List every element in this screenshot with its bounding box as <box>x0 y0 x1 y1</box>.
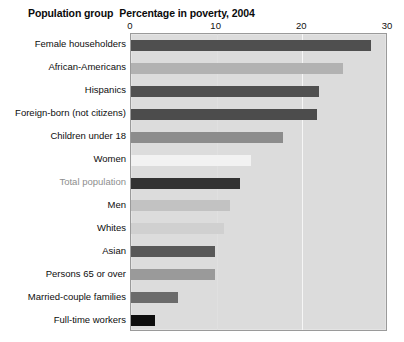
category-label-list: Female householdersAfrican-AmericansHisp… <box>0 33 126 331</box>
category-label: Married-couple families <box>28 292 126 302</box>
bar-row <box>131 178 386 189</box>
bar-row <box>131 200 386 211</box>
category-label: Whites <box>97 223 126 233</box>
x-tick-label: 20 <box>296 20 307 31</box>
category-label: Children under 18 <box>50 131 126 141</box>
x-tick-label: 10 <box>210 20 221 31</box>
bar-row <box>131 109 386 120</box>
bar-row <box>131 269 386 280</box>
bar <box>131 63 343 74</box>
chart-title: Percentage in poverty, 2004 <box>119 7 254 19</box>
category-label: Total population <box>59 177 126 187</box>
category-label: Persons 65 or over <box>46 269 126 279</box>
bar-row <box>131 315 386 326</box>
category-label: Asian <box>102 246 126 256</box>
category-label: Foreign-born (not citizens) <box>15 108 126 118</box>
bar-row <box>131 155 386 166</box>
bar <box>131 269 215 280</box>
bar-row <box>131 223 386 234</box>
bar <box>131 40 371 51</box>
x-axis: 0102030 <box>130 20 387 33</box>
x-tick-label: 30 <box>382 20 393 31</box>
bar-row <box>131 63 386 74</box>
x-tick-label: 0 <box>127 20 132 31</box>
bar <box>131 246 215 257</box>
bar-row <box>131 292 386 303</box>
bar-series <box>131 34 386 330</box>
bar <box>131 292 178 303</box>
bar-row <box>131 40 386 51</box>
bar-row <box>131 86 386 97</box>
bar <box>131 155 251 166</box>
category-label: Men <box>108 200 126 210</box>
category-label: Hispanics <box>85 85 126 95</box>
bar <box>131 86 319 97</box>
category-label: Full-time workers <box>54 315 126 325</box>
bar-row <box>131 132 386 143</box>
plot-area <box>130 33 387 331</box>
category-label: African-Americans <box>48 62 126 72</box>
bar <box>131 132 283 143</box>
bar <box>131 200 230 211</box>
category-label: Women <box>93 154 126 164</box>
poverty-bar-chart: Population group Percentage in poverty, … <box>0 0 404 342</box>
bar-row <box>131 246 386 257</box>
bar <box>131 315 155 326</box>
bar <box>131 109 317 120</box>
category-label: Female householders <box>35 39 126 49</box>
bar <box>131 178 240 189</box>
bar <box>131 223 224 234</box>
population-group-header: Population group <box>28 7 113 19</box>
